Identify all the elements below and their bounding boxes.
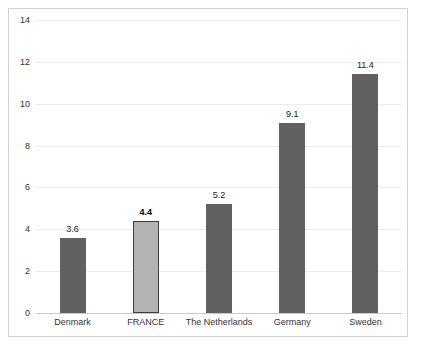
x-tick-label: FRANCE [127,318,164,327]
x-tick-label: The Netherlands [186,318,253,327]
x-axis-tick-labels: DenmarkFRANCEThe NetherlandsGermanySwede… [36,0,402,329]
y-tick-label: 10 [8,100,30,109]
y-tick-label: 4 [8,225,30,234]
x-tick-label: Sweden [349,318,382,327]
y-tick-label: 12 [8,58,30,67]
y-tick-label: 0 [8,309,30,318]
x-tick-label: Denmark [54,318,91,327]
y-tick-label: 14 [8,16,30,25]
y-tick-label: 6 [8,183,30,192]
y-axis-tick-labels: 14 12 10 8 6 4 2 0 [8,20,30,313]
bar-chart: 14 12 10 8 6 4 2 0 3.64.45.29.111.4 Denm… [0,0,421,348]
y-tick-label: 8 [8,142,30,151]
x-tick-label: Germany [274,318,311,327]
y-tick-label: 2 [8,267,30,276]
